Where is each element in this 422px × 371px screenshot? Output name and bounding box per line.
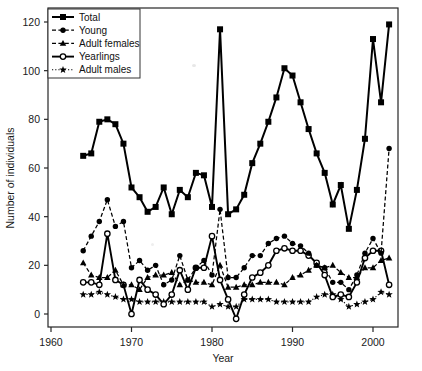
marker-filled-square [161, 184, 167, 190]
marker-filled-circle [217, 207, 222, 212]
marker-filled-square [112, 121, 118, 127]
marker-filled-star [216, 300, 223, 307]
line-chart: 020406080100120 19601970198019902000 Tot… [0, 0, 422, 371]
marker-open-circle [97, 282, 102, 287]
marker-filled-circle [250, 253, 255, 258]
marker-filled-circle [137, 258, 142, 263]
x-tick-label: 1990 [281, 336, 305, 348]
marker-filled-square [60, 14, 66, 20]
marker-filled-circle [330, 280, 335, 285]
marker-filled-triangle [273, 279, 279, 285]
marker-filled-circle [193, 265, 198, 270]
marker-open-circle [322, 272, 327, 277]
y-tick-label: 120 [22, 16, 40, 28]
marker-filled-star [144, 298, 151, 305]
x-tick-label: 1960 [39, 336, 63, 348]
marker-filled-square [330, 202, 336, 208]
marker-open-circle [145, 287, 150, 292]
marker-filled-triangle [225, 284, 231, 290]
marker-open-circle [201, 265, 206, 270]
marker-filled-star [176, 298, 183, 305]
marker-filled-triangle [305, 267, 311, 273]
marker-filled-circle [346, 287, 351, 292]
marker-filled-star [88, 291, 95, 298]
marker-filled-square [96, 119, 102, 125]
marker-filled-circle [242, 265, 247, 270]
marker-filled-square [322, 170, 328, 176]
y-tick-label: 40 [28, 211, 40, 223]
marker-filled-triangle [330, 262, 336, 268]
marker-filled-star [273, 298, 280, 305]
marker-open-circle [282, 246, 287, 251]
marker-open-circle [370, 248, 375, 253]
marker-filled-circle [161, 282, 166, 287]
marker-filled-square [346, 226, 352, 232]
marker-filled-circle [362, 250, 367, 255]
marker-filled-circle [386, 146, 391, 151]
marker-filled-triangle [297, 272, 303, 278]
x-tick-label: 1980 [200, 336, 224, 348]
marker-filled-circle [258, 253, 263, 258]
marker-filled-square [177, 187, 183, 193]
x-tick-label: 1970 [120, 336, 144, 348]
marker-open-circle [258, 270, 263, 275]
marker-filled-square [290, 73, 296, 79]
marker-filled-star [96, 288, 103, 295]
y-tick-label: 80 [28, 113, 40, 125]
marker-filled-square [386, 21, 392, 27]
marker-filled-circle [177, 253, 182, 258]
legend-label-yearlings: Yearlings [79, 51, 120, 62]
marker-filled-square [193, 170, 199, 176]
marker-filled-square [265, 119, 271, 125]
scan-artifact-speck-2 [151, 243, 154, 246]
marker-filled-circle [81, 248, 86, 253]
marker-filled-circle [290, 241, 295, 246]
marker-filled-square [88, 150, 94, 156]
marker-filled-circle [378, 250, 383, 255]
marker-open-circle [89, 280, 94, 285]
marker-filled-circle [89, 233, 94, 238]
marker-filled-square [104, 116, 110, 122]
marker-open-circle [113, 277, 118, 282]
marker-filled-star [249, 296, 256, 303]
marker-filled-square [354, 187, 360, 193]
marker-filled-square [370, 36, 376, 42]
marker-filled-star [184, 298, 191, 305]
marker-filled-square [169, 211, 175, 217]
marker-filled-star [297, 298, 304, 305]
marker-filled-circle [306, 250, 311, 255]
marker-open-circle [137, 277, 142, 282]
marker-open-circle [386, 282, 391, 287]
marker-filled-circle [129, 265, 134, 270]
marker-filled-circle [185, 277, 190, 282]
marker-filled-square [153, 204, 159, 210]
marker-filled-star [192, 298, 199, 305]
marker-filled-circle [113, 224, 118, 229]
marker-filled-circle [225, 275, 230, 280]
marker-filled-circle [153, 263, 158, 268]
marker-filled-circle [121, 219, 126, 224]
marker-filled-square [273, 94, 279, 100]
marker-open-circle [330, 294, 335, 299]
marker-filled-circle [201, 258, 206, 263]
marker-open-circle [233, 316, 238, 321]
marker-filled-circle [370, 236, 375, 241]
marker-open-circle [298, 248, 303, 253]
marker-filled-triangle [88, 272, 94, 278]
marker-filled-circle [322, 265, 327, 270]
marker-filled-square [249, 160, 255, 166]
marker-filled-star [281, 298, 288, 305]
marker-open-circle [161, 302, 166, 307]
y-axis-ticks: 020406080100120 [22, 16, 48, 320]
marker-open-circle [338, 292, 343, 297]
marker-filled-star [208, 303, 215, 310]
marker-open-circle [169, 292, 174, 297]
marker-filled-square [314, 150, 320, 156]
marker-filled-circle [338, 280, 343, 285]
marker-filled-circle [354, 272, 359, 277]
marker-open-circle [354, 280, 359, 285]
marker-filled-square [281, 65, 287, 71]
marker-filled-star [136, 298, 143, 305]
marker-filled-circle [105, 197, 110, 202]
legend-label-young: Young [79, 25, 107, 36]
